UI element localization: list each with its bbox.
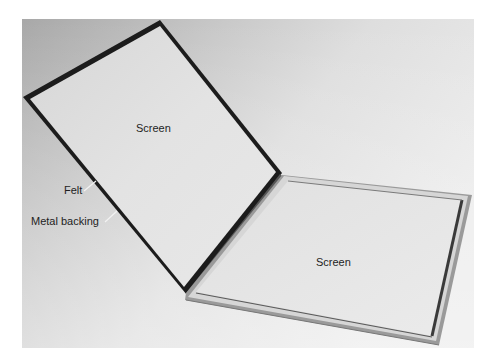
label-lid-screen: Screen: [136, 122, 171, 134]
cassette-photograph: Screen Screen Felt Metal backing: [0, 0, 495, 363]
label-felt: Felt: [64, 184, 82, 196]
label-metal-backing: Metal backing: [31, 215, 99, 227]
label-tray-screen: Screen: [316, 256, 351, 268]
